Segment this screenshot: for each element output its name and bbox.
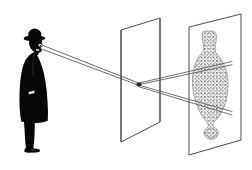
pinhole-panel-surface bbox=[121, 18, 160, 142]
pinhole-aperture bbox=[136, 83, 141, 87]
moustache bbox=[41, 47, 43, 48]
pupil bbox=[40, 45, 41, 46]
pinhole-panel bbox=[121, 18, 160, 142]
pinhole-diagram bbox=[0, 0, 252, 170]
figure-canvas: Pinhole projection diagram A man in a bo… bbox=[0, 0, 252, 170]
pinhole bbox=[136, 83, 141, 87]
trousers bbox=[24, 122, 35, 150]
shoe bbox=[24, 148, 40, 153]
bowler-hat-brim bbox=[24, 36, 46, 41]
overcoat bbox=[19, 53, 48, 124]
arm-line bbox=[45, 62, 48, 82]
man-in-bowler-hat bbox=[19, 29, 48, 153]
